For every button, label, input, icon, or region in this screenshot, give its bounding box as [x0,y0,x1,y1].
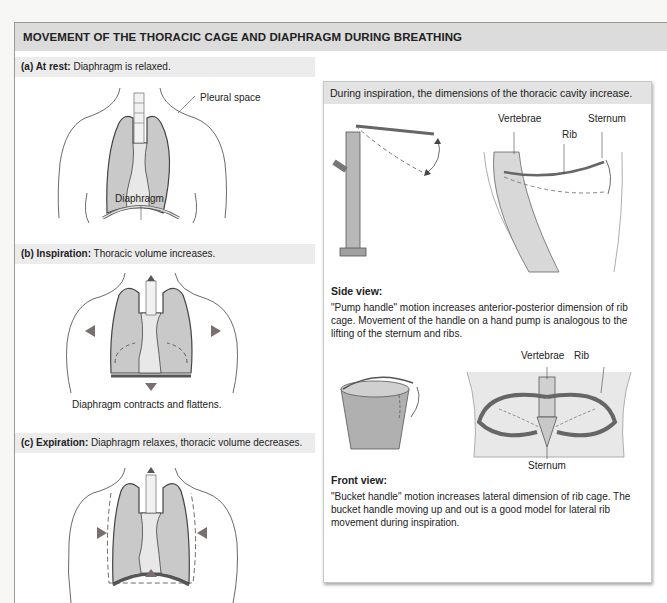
front-view-description: "Bucket handle" motion increases lateral… [331,490,643,529]
hand-pump-illustration [334,112,454,262]
diaphragm-label: Diaphragm [115,193,164,204]
section-b-text: Thoracic volume increases. [91,248,215,259]
expiration-thorax-illustration [55,463,255,603]
section-b-heading: (b) Inspiration: Thoracic volume increas… [15,244,315,264]
inspiration-thorax-illustration [55,273,255,393]
pleural-space-label: Pleural space [200,92,261,103]
section-a-text: Diaphragm is relaxed. [71,61,171,72]
spine-rib-side-illustration [474,122,644,272]
panel-heading: During inspiration, the dimensions of th… [324,82,651,104]
side-sternum-label: Sternum [588,113,626,124]
figure-frame: MOVEMENT OF THE THORACIC CAGE AND DIAPHR… [14,22,667,603]
side-view-title: Side view: [331,285,382,297]
section-c-text: Diaphragm relaxes, thoracic volume decre… [88,437,302,448]
section-c-label: (c) Expiration: [21,437,88,448]
figure-title: MOVEMENT OF THE THORACIC CAGE AND DIAPHR… [15,23,667,51]
section-a-label: (a) At rest: [21,61,71,72]
side-view-description: "Pump handle" motion increases anterior-… [331,301,643,340]
section-a-heading: (a) At rest: Diaphragm is relaxed. [15,57,315,77]
inspiration-dimensions-panel: During inspiration, the dimensions of th… [323,81,652,583]
front-vertebrae-label: Vertebrae [521,350,564,361]
section-c-heading: (c) Expiration: Diaphragm relaxes, thora… [15,433,315,453]
side-rib-label: Rib [562,129,577,140]
front-rib-label: Rib [574,350,589,361]
side-vertebrae-label: Vertebrae [498,113,541,124]
front-sternum-label: Sternum [528,460,566,471]
rest-thorax-illustration [45,83,315,223]
inspiration-caption: Diaphragm contracts and flattens. [72,399,222,410]
bucket-illustration [339,377,429,457]
front-view-title: Front view: [331,474,387,486]
section-b-label: (b) Inspiration: [21,248,91,259]
ribcage-front-illustration [459,367,639,457]
